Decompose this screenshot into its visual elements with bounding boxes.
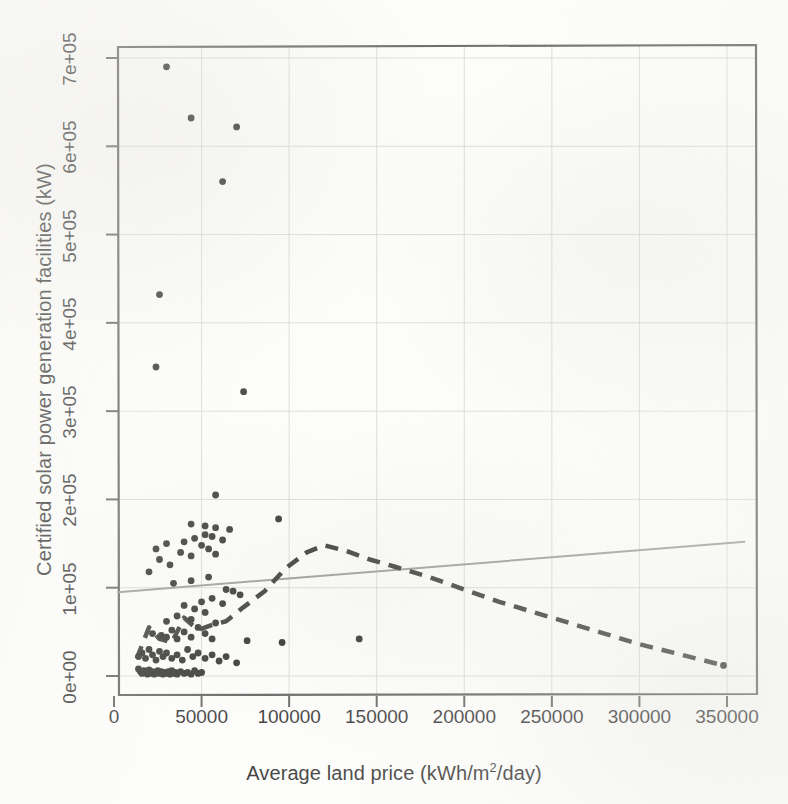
x-tick-label: 150000 <box>345 706 408 728</box>
y-axis-title-wrapper: Certified solar power generation facilit… <box>33 50 56 690</box>
x-tick-label: 300000 <box>608 706 671 728</box>
x-tick-label: 0 <box>109 706 120 728</box>
plot-canvas <box>0 0 788 804</box>
x-axis-title-suffix: /day) <box>497 762 542 784</box>
x-tick-label: 250000 <box>520 706 583 728</box>
scatter-plot-figure: 0500001000001500002000002500003000003500… <box>0 0 788 804</box>
x-tick-label: 350000 <box>695 706 758 728</box>
axis-ticks <box>106 58 727 707</box>
data-points <box>135 63 727 677</box>
regression-line <box>118 542 745 592</box>
x-tick-label: 50000 <box>175 706 228 728</box>
x-tick-label: 200000 <box>433 706 496 728</box>
x-axis-title-prefix: Average land price (kWh/m <box>246 762 489 784</box>
x-tick-label: 100000 <box>257 706 320 728</box>
y-axis-title: Certified solar power generation facilit… <box>33 163 56 576</box>
x-axis-title: Average land price (kWh/m2/day) <box>0 760 788 785</box>
x-axis-title-superscript: 2 <box>490 760 497 775</box>
